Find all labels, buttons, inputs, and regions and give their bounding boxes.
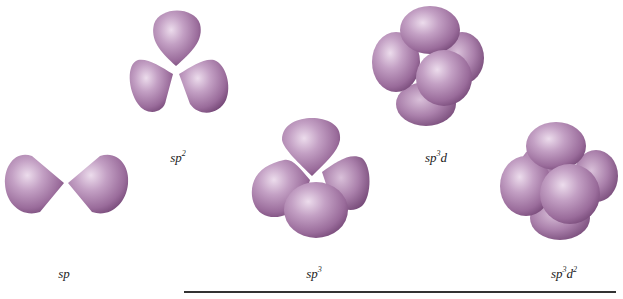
label-sp: sp	[58, 266, 70, 282]
label-sp3d2: sp3d2	[551, 266, 577, 282]
sp-orbital-icon	[5, 155, 128, 214]
orbital-illustrations	[0, 0, 623, 299]
label-sp3d2-d-exponent: 2	[573, 265, 577, 274]
label-sp2-base: sp	[170, 150, 182, 165]
label-sp3-base: sp	[306, 266, 318, 281]
label-sp2-exponent: 2	[182, 149, 186, 158]
divider-rule	[184, 291, 616, 293]
label-sp2: sp2	[170, 150, 186, 166]
sp2-orbital-icon	[130, 11, 229, 113]
sp3-orbital-icon	[252, 118, 370, 238]
label-sp-base: sp	[58, 266, 70, 281]
hybrid-orbitals-figure: sp sp2 sp3 sp3d sp3d2	[0, 0, 623, 299]
sp3d2-orbital-icon	[500, 122, 618, 240]
label-sp3-exponent: 3	[318, 265, 322, 274]
label-sp3d: sp3d	[425, 150, 447, 166]
label-sp3: sp3	[306, 266, 322, 282]
label-sp3d2-base: sp	[551, 266, 563, 281]
label-sp3d-d: d	[441, 150, 448, 165]
sp3d-orbital-icon	[372, 6, 484, 126]
label-sp3d-base: sp	[425, 150, 437, 165]
